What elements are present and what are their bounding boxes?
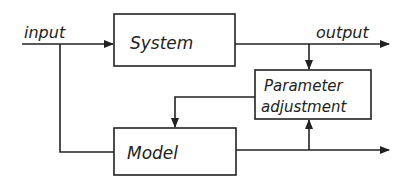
system-label: System xyxy=(130,33,193,53)
model-label: Model xyxy=(127,143,178,163)
input-label: input xyxy=(24,23,66,42)
block-diagram: input output System Parameter adjustment… xyxy=(0,0,409,183)
adjustment-label: adjustment xyxy=(261,98,347,116)
parameter-label: Parameter xyxy=(264,77,344,95)
output-label: output xyxy=(316,23,370,42)
param-to-model-line xyxy=(175,97,255,127)
input-to-model-line xyxy=(60,44,114,152)
